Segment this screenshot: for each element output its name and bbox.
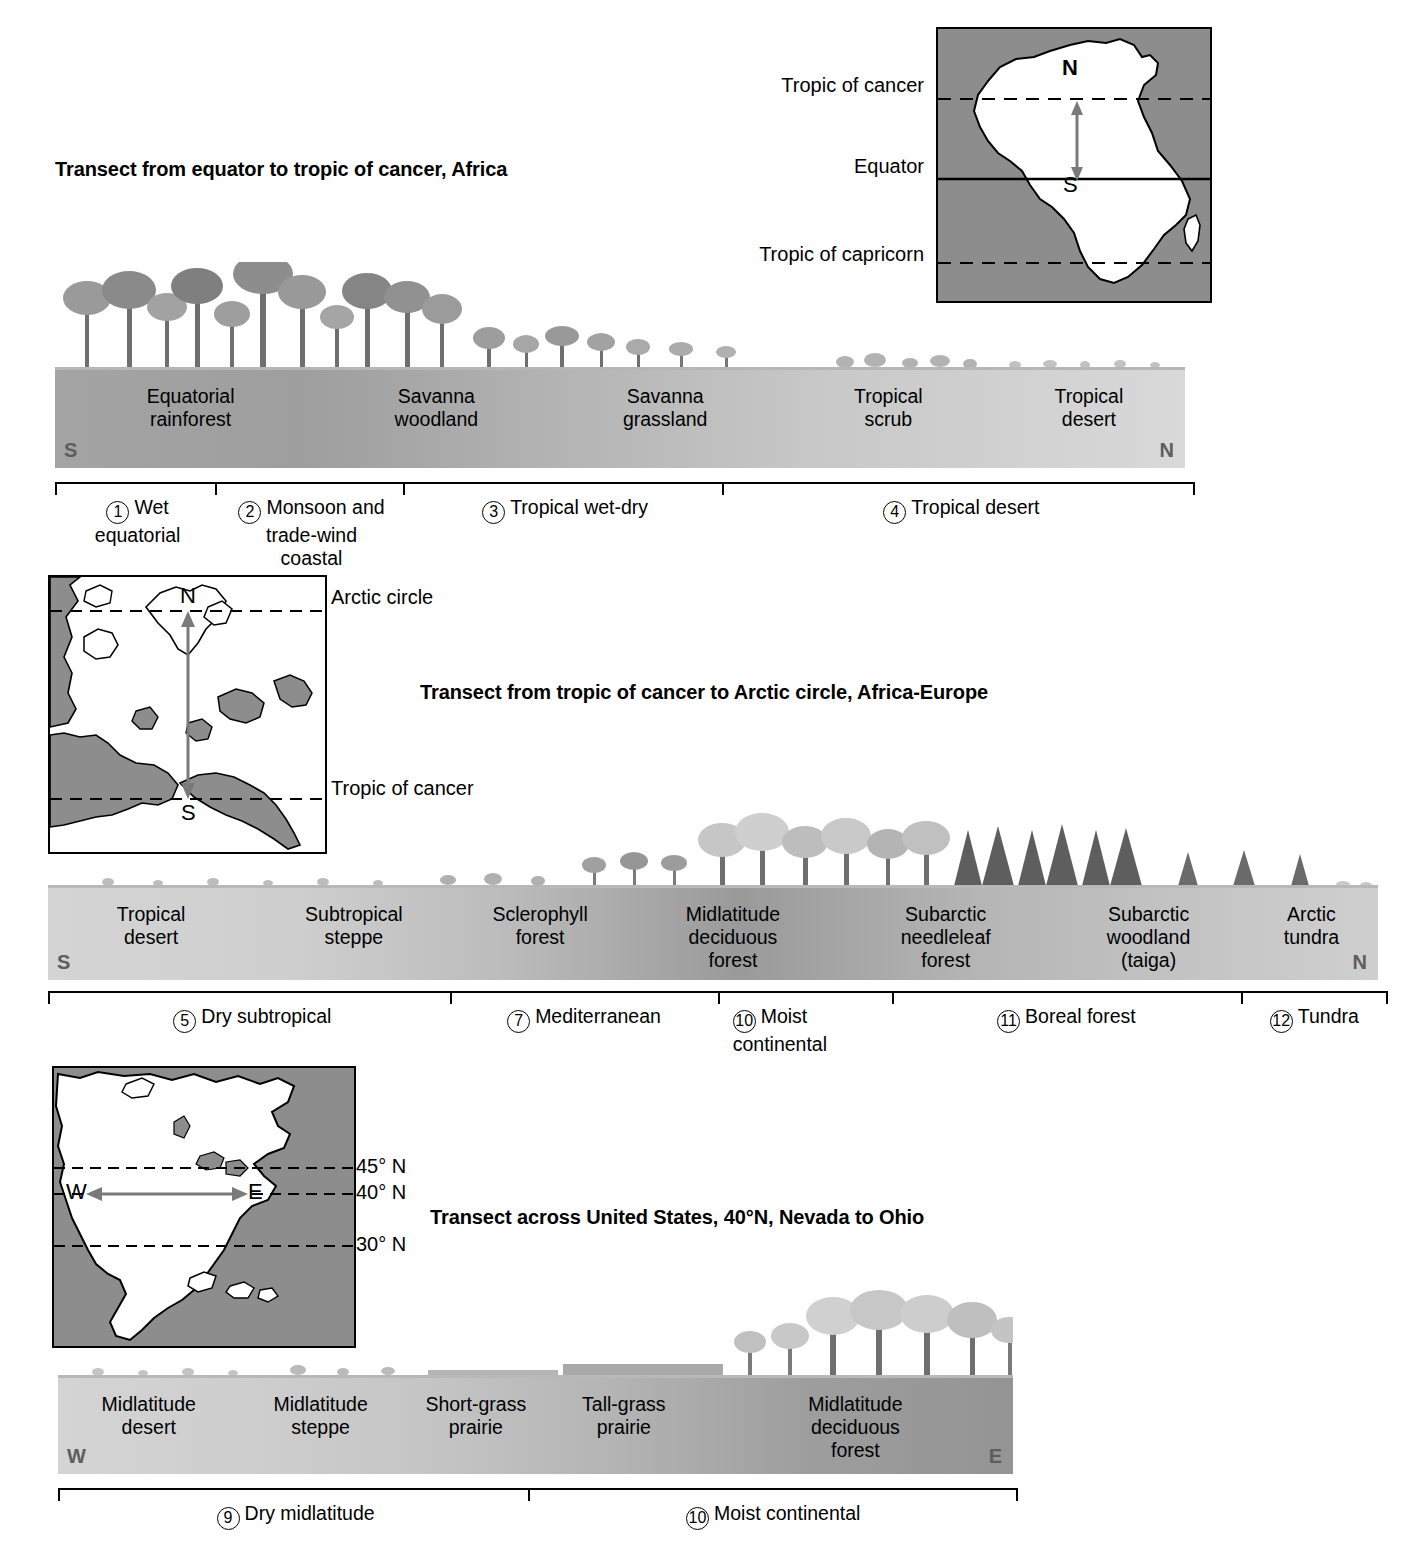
europe-map-arrow-north-label: N xyxy=(180,583,196,609)
zone-subarctic-needleleaf-forest: Subarctic needleleaf forest xyxy=(839,888,1052,972)
climate-10-moist-continental: 10Moist continental xyxy=(725,1005,901,1056)
vegetation-profile-africa-europe xyxy=(48,800,1378,890)
transect-band-africa-europe: Tropical desert Subtropical steppe Scler… xyxy=(48,888,1378,980)
climate-7-mediterranean: 7Mediterranean xyxy=(450,1005,718,1033)
transect-band-africa: Equatorial rainforest Savanna woodland S… xyxy=(55,370,1185,468)
marker-south-africa: S xyxy=(64,439,77,462)
zone-subarctic-woodland-taiga: Subarctic woodland (taiga) xyxy=(1052,888,1245,972)
climate-9-dry-midlatitude: 9Dry midlatitude xyxy=(63,1502,529,1530)
transect-band-united-states: Midlatitude desert Midlatitude steppe Sh… xyxy=(58,1378,1013,1474)
na-map-label-40n: 40° N xyxy=(356,1181,406,1204)
zone-savanna-woodland: Savanna woodland xyxy=(326,370,546,431)
climate-scale-africa-europe: 5Dry subtropical 7Mediterranean 10Moist … xyxy=(48,991,1388,1061)
transect-title-africa: Transect from equator to tropic of cance… xyxy=(55,158,507,181)
zone-midlatitude-deciduous-forest-us: Midlatitude deciduous forest xyxy=(698,1378,1013,1462)
na-map-label-45n: 45° N xyxy=(356,1155,406,1178)
zone-tropical-desert-2: Tropical desert xyxy=(48,888,254,949)
transect-title-africa-europe: Transect from tropic of cancer to Arctic… xyxy=(420,681,988,704)
na-map-label-30n: 30° N xyxy=(356,1233,406,1256)
zone-savanna-grassland: Savanna grassland xyxy=(547,370,784,431)
transect-title-united-states: Transect across United States, 40°N, Nev… xyxy=(430,1206,924,1229)
climate-scale-africa: 1Wet equatorial 2Monsoon and trade-wind … xyxy=(55,482,1195,562)
africa-map-label-equator: Equator xyxy=(768,155,924,178)
africa-map-arrow-north-label: N xyxy=(1062,55,1078,81)
climate-5-dry-subtropical: 5Dry subtropical xyxy=(55,1005,450,1033)
vegetation-profile-united-states xyxy=(58,1290,1013,1380)
climate-2-monsoon-trade-wind-coastal: 2Monsoon and trade-wind coastal xyxy=(220,496,402,571)
na-map-arrow-west-label: W xyxy=(66,1179,87,1205)
marker-north-africa: N xyxy=(1160,439,1174,462)
zone-short-grass-prairie: Short-grass prairie xyxy=(402,1378,550,1439)
zone-tropical-desert: Tropical desert xyxy=(993,370,1185,431)
zone-subtropical-steppe: Subtropical steppe xyxy=(254,888,454,949)
zone-midlatitude-steppe: Midlatitude steppe xyxy=(239,1378,401,1439)
marker-north-africa-europe: N xyxy=(1353,951,1367,974)
marker-east-united-states: E xyxy=(989,1445,1002,1468)
climate-4-tropical-desert: 4Tropical desert xyxy=(728,496,1195,524)
climate-10-moist-continental-us: 10Moist continental xyxy=(528,1502,1018,1530)
zone-arctic-tundra: Arctic tundra xyxy=(1245,888,1378,949)
zone-tropical-scrub: Tropical scrub xyxy=(784,370,993,431)
zone-midlatitude-deciduous-forest: Midlatitude deciduous forest xyxy=(627,888,840,972)
zone-equatorial-rainforest: Equatorial rainforest xyxy=(55,370,326,431)
marker-west-united-states: W xyxy=(67,1445,86,1468)
na-map-arrow-east-label: E xyxy=(248,1179,263,1205)
marker-south-africa-europe: S xyxy=(57,951,70,974)
climate-11-boreal-forest: 11Boreal forest xyxy=(892,1005,1240,1033)
climate-12-tundra: 12Tundra xyxy=(1241,1005,1388,1033)
europe-map-label-tropic-cancer: Tropic of cancer xyxy=(331,777,474,800)
africa-map-arrow-south-label: S xyxy=(1063,172,1078,198)
vegetation-profile-africa xyxy=(55,262,1185,372)
zone-midlatitude-desert: Midlatitude desert xyxy=(58,1378,239,1439)
europe-map-label-arctic-circle: Arctic circle xyxy=(331,586,433,609)
zone-tall-grass-prairie: Tall-grass prairie xyxy=(550,1378,698,1439)
climate-scale-united-states: 9Dry midlatitude 10Moist continental xyxy=(58,1488,1018,1548)
africa-map-label-tropic-cancer: Tropic of cancer xyxy=(768,74,924,97)
zone-sclerophyll-forest: Sclerophyll forest xyxy=(454,888,627,949)
climate-1-wet-equatorial: 1Wet equatorial xyxy=(61,496,215,547)
climate-3-tropical-wet-dry: 3Tropical wet-dry xyxy=(408,496,722,524)
